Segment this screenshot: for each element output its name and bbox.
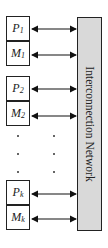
network-label: Interconnection Network <box>84 66 96 181</box>
interconnection-network: Interconnection Network <box>77 17 102 231</box>
